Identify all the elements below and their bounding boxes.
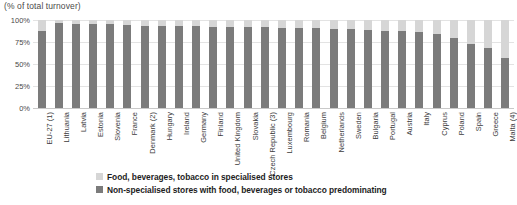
- bar-slot[interactable]: [325, 20, 342, 108]
- bar-slot[interactable]: [33, 20, 50, 108]
- bar-segment-non-specialised[interactable]: [381, 31, 389, 108]
- stacked-bar[interactable]: [72, 20, 80, 108]
- stacked-bar[interactable]: [123, 20, 131, 108]
- bar-segment-non-specialised[interactable]: [72, 24, 80, 108]
- stacked-bar[interactable]: [38, 20, 46, 108]
- bar-slot[interactable]: [445, 20, 462, 108]
- bar-slot[interactable]: [67, 20, 84, 108]
- bar-segment-non-specialised[interactable]: [192, 26, 200, 108]
- bar-segment-specialised[interactable]: [295, 20, 303, 28]
- stacked-bar[interactable]: [175, 20, 183, 108]
- bar-segment-non-specialised[interactable]: [415, 32, 423, 108]
- bar-segment-non-specialised[interactable]: [433, 34, 441, 108]
- bar-segment-specialised[interactable]: [398, 20, 406, 31]
- bar-segment-non-specialised[interactable]: [484, 48, 492, 108]
- bar-slot[interactable]: [85, 20, 102, 108]
- bar-segment-non-specialised[interactable]: [141, 26, 149, 108]
- bar-slot[interactable]: [102, 20, 119, 108]
- bar-slot[interactable]: [497, 20, 514, 108]
- bar-segment-non-specialised[interactable]: [295, 28, 303, 108]
- bar-slot[interactable]: [170, 20, 187, 108]
- bar-segment-non-specialised[interactable]: [226, 27, 234, 108]
- bar-slot[interactable]: [394, 20, 411, 108]
- bar-segment-specialised[interactable]: [501, 20, 509, 58]
- bar-slot[interactable]: [342, 20, 359, 108]
- bar-slot[interactable]: [291, 20, 308, 108]
- bar-segment-specialised[interactable]: [209, 20, 217, 27]
- stacked-bar[interactable]: [89, 20, 97, 108]
- bar-segment-non-specialised[interactable]: [89, 24, 97, 108]
- bar-segment-non-specialised[interactable]: [209, 27, 217, 108]
- stacked-bar[interactable]: [433, 20, 441, 108]
- bar-segment-specialised[interactable]: [244, 20, 252, 27]
- bar-slot[interactable]: [359, 20, 376, 108]
- bar-slot[interactable]: [411, 20, 428, 108]
- stacked-bar[interactable]: [244, 20, 252, 108]
- bar-slot[interactable]: [188, 20, 205, 108]
- stacked-bar[interactable]: [398, 20, 406, 108]
- stacked-bar[interactable]: [261, 20, 269, 108]
- bar-segment-specialised[interactable]: [278, 20, 286, 28]
- bar-slot[interactable]: [119, 20, 136, 108]
- bar-segment-specialised[interactable]: [484, 20, 492, 48]
- stacked-bar[interactable]: [278, 20, 286, 108]
- bar-segment-non-specialised[interactable]: [398, 31, 406, 108]
- bar-segment-non-specialised[interactable]: [501, 58, 509, 108]
- stacked-bar[interactable]: [450, 20, 458, 108]
- bar-segment-non-specialised[interactable]: [106, 24, 114, 108]
- bar-segment-specialised[interactable]: [415, 20, 423, 32]
- bar-slot[interactable]: [205, 20, 222, 108]
- bar-segment-specialised[interactable]: [226, 20, 234, 27]
- stacked-bar[interactable]: [106, 20, 114, 108]
- bar-segment-specialised[interactable]: [347, 20, 355, 29]
- bar-slot[interactable]: [153, 20, 170, 108]
- stacked-bar[interactable]: [381, 20, 389, 108]
- stacked-bar[interactable]: [415, 20, 423, 108]
- stacked-bar[interactable]: [330, 20, 338, 108]
- bar-segment-specialised[interactable]: [312, 20, 320, 28]
- bar-slot[interactable]: [256, 20, 273, 108]
- stacked-bar[interactable]: [295, 20, 303, 108]
- stacked-bar[interactable]: [347, 20, 355, 108]
- bar-segment-non-specialised[interactable]: [244, 27, 252, 108]
- bar-slot[interactable]: [428, 20, 445, 108]
- bar-slot[interactable]: [273, 20, 290, 108]
- bar-slot[interactable]: [50, 20, 67, 108]
- bar-segment-specialised[interactable]: [364, 20, 372, 30]
- bar-segment-specialised[interactable]: [381, 20, 389, 31]
- bar-segment-specialised[interactable]: [261, 20, 269, 27]
- stacked-bar[interactable]: [141, 20, 149, 108]
- stacked-bar[interactable]: [226, 20, 234, 108]
- stacked-bar[interactable]: [467, 20, 475, 108]
- bar-segment-specialised[interactable]: [433, 20, 441, 34]
- bar-segment-non-specialised[interactable]: [450, 38, 458, 108]
- bar-segment-non-specialised[interactable]: [312, 28, 320, 108]
- bar-segment-non-specialised[interactable]: [278, 28, 286, 108]
- stacked-bar[interactable]: [192, 20, 200, 108]
- bar-segment-specialised[interactable]: [330, 20, 338, 29]
- bar-segment-non-specialised[interactable]: [467, 44, 475, 108]
- bar-slot[interactable]: [462, 20, 479, 108]
- bar-slot[interactable]: [376, 20, 393, 108]
- bar-segment-non-specialised[interactable]: [158, 26, 166, 108]
- stacked-bar[interactable]: [484, 20, 492, 108]
- bar-segment-specialised[interactable]: [38, 20, 46, 31]
- stacked-bar[interactable]: [501, 20, 509, 108]
- bar-segment-non-specialised[interactable]: [347, 29, 355, 108]
- stacked-bar[interactable]: [158, 20, 166, 108]
- bar-slot[interactable]: [239, 20, 256, 108]
- bar-segment-non-specialised[interactable]: [330, 29, 338, 108]
- bar-segment-non-specialised[interactable]: [261, 27, 269, 108]
- bar-slot[interactable]: [136, 20, 153, 108]
- bar-slot[interactable]: [308, 20, 325, 108]
- bar-segment-non-specialised[interactable]: [55, 23, 63, 108]
- bar-segment-non-specialised[interactable]: [123, 25, 131, 108]
- bar-segment-specialised[interactable]: [467, 20, 475, 44]
- stacked-bar[interactable]: [209, 20, 217, 108]
- bar-segment-non-specialised[interactable]: [364, 30, 372, 108]
- stacked-bar[interactable]: [312, 20, 320, 108]
- bar-segment-non-specialised[interactable]: [175, 26, 183, 108]
- stacked-bar[interactable]: [55, 20, 63, 108]
- bar-segment-non-specialised[interactable]: [38, 31, 46, 108]
- stacked-bar[interactable]: [364, 20, 372, 108]
